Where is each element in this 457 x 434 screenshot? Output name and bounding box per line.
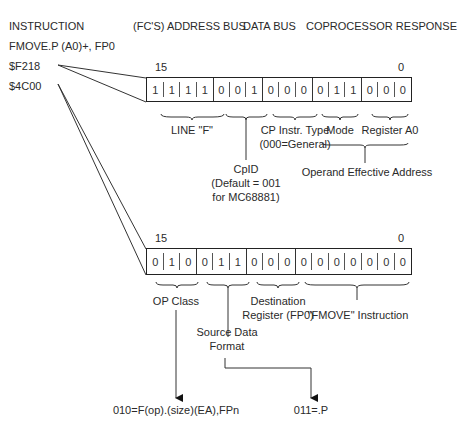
bit-cell: 0 — [263, 78, 280, 101]
register2-bit-field: 0 1 0 0 1 1 0 0 0 0 0 0 0 0 0 0 — [146, 248, 412, 275]
bit-cell: 0 — [279, 78, 296, 101]
field-cpid-default: (Default = 001 — [211, 177, 280, 190]
field-destination-register: Register (FP0) — [242, 309, 314, 322]
field-cp-type-detail: (000=General) — [259, 138, 330, 151]
field-register: Register A0 — [362, 124, 419, 137]
bit-cell: 0 — [230, 78, 247, 101]
bit-cell: 1 — [230, 249, 247, 274]
bit-cell: 0 — [213, 78, 230, 101]
bit-cell: 0 — [378, 249, 395, 274]
bit-cell: 1 — [329, 78, 346, 101]
bit-cell: 1 — [164, 78, 181, 101]
result-format: 011=.P — [294, 404, 328, 417]
bit-cell: 0 — [296, 78, 313, 101]
register2-lsb-label: 0 — [398, 232, 404, 245]
bit-cell: 1 — [164, 249, 181, 274]
field-cpid: CpID — [233, 163, 258, 176]
bit-cell: 0 — [362, 78, 379, 101]
bit-cell: 1 — [345, 78, 362, 101]
bit-cell: 0 — [197, 249, 214, 274]
bit-cell: 0 — [362, 249, 379, 274]
bit-cell: 0 — [279, 249, 296, 274]
bit-cell: 0 — [263, 249, 280, 274]
bit-cell: 0 — [312, 78, 329, 101]
bit-cell: 1 — [147, 78, 164, 101]
bit-cell: 0 — [296, 249, 313, 274]
bit-cell: 1 — [197, 78, 214, 101]
result-op-class: 010=F(op).(size)(EA),FPn — [113, 404, 239, 417]
bit-cell: 0 — [395, 249, 412, 274]
field-cp-type: CP Instr. Type — [261, 124, 330, 137]
bit-cell: 0 — [329, 249, 346, 274]
register1-lsb-label: 0 — [398, 61, 404, 74]
bit-cell: 0 — [180, 249, 197, 274]
bit-cell: 0 — [147, 249, 164, 274]
bit-cell: 0 — [246, 249, 263, 274]
field-destination: Destination — [250, 295, 305, 308]
field-line-f: LINE "F" — [171, 124, 213, 137]
field-operand-ea: Operand Effective Address — [302, 166, 433, 179]
field-source-data: Source Data — [196, 326, 257, 339]
register1-msb-label: 15 — [155, 61, 167, 74]
bit-cell: 0 — [378, 78, 395, 101]
register1-bit-field: 1 1 1 1 0 0 1 0 0 0 0 1 1 0 0 0 — [146, 77, 412, 102]
bit-cell: 0 — [312, 249, 329, 274]
field-mode: Mode — [326, 124, 354, 137]
field-fmove-instruction: "FMOVE" Instruction — [308, 309, 409, 322]
bit-cell: 1 — [180, 78, 197, 101]
field-cpid-chip: for MC68881) — [212, 191, 279, 204]
bit-cell: 0 — [395, 78, 412, 101]
bit-cell: 0 — [345, 249, 362, 274]
field-op-class: OP Class — [153, 295, 199, 308]
field-source-format: Format — [210, 340, 245, 353]
bit-cell: 1 — [246, 78, 263, 101]
register2-msb-label: 15 — [155, 232, 167, 245]
bit-cell: 1 — [213, 249, 230, 274]
